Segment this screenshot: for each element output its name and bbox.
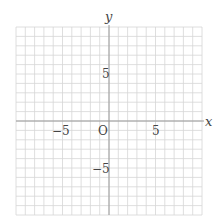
x-tick-neg5: −5	[52, 125, 70, 137]
x-tick-5: 5	[152, 125, 160, 137]
y-tick-5: 5	[102, 68, 110, 80]
y-axis-label: y	[105, 10, 112, 23]
origin-label: O	[98, 125, 108, 137]
coordinate-grid	[0, 0, 223, 222]
y-tick-neg5: −5	[92, 163, 110, 175]
x-axis-label: x	[205, 115, 212, 128]
